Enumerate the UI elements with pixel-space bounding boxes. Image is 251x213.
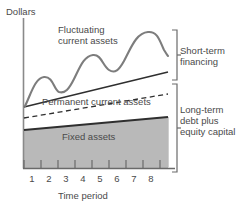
x-tick-label-2: 2	[43, 173, 55, 184]
long-term-debt-bracket	[172, 84, 177, 172]
fixed-assets-area	[24, 117, 168, 168]
short-term-financing-bracket	[172, 30, 177, 80]
y-axis-label: Dollars	[6, 6, 36, 17]
annotation-long-term-debt-equity: Long-term debt plus equity capital	[180, 104, 235, 137]
chart-figure: Dollars Fluctuating current assets Short…	[0, 0, 251, 213]
x-tick-label-3: 3	[60, 173, 72, 184]
annotation-permanent-current-assets: Permanent current assets	[42, 96, 151, 107]
x-axis-label: Time period	[58, 190, 108, 201]
x-tick-label-5: 5	[94, 173, 106, 184]
annotation-short-term-financing: Short-term financing	[180, 45, 225, 67]
x-tick-label-6: 6	[111, 173, 123, 184]
x-tick-label-7: 7	[128, 173, 140, 184]
annotation-fixed-assets: Fixed assets	[62, 131, 115, 142]
x-tick-label-8: 8	[145, 173, 157, 184]
x-tick-label-1: 1	[26, 173, 38, 184]
annotation-fluctuating-current-assets: Fluctuating current assets	[58, 24, 118, 46]
x-tick-label-4: 4	[77, 173, 89, 184]
